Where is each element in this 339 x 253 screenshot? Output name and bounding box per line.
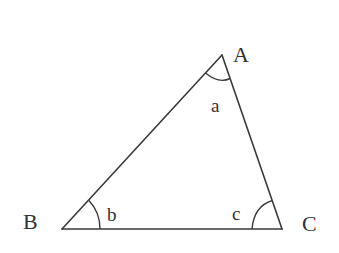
angle-arc-a bbox=[206, 73, 231, 80]
vertex-label-b: B bbox=[23, 209, 38, 234]
angle-label-a: a bbox=[211, 95, 220, 116]
edge-ab bbox=[62, 55, 222, 229]
angle-label-c: c bbox=[232, 203, 240, 224]
vertex-label-c: C bbox=[302, 211, 317, 236]
angle-arc-c bbox=[252, 201, 273, 230]
edge-ac bbox=[222, 55, 282, 229]
triangle-diagram: A B C a b c bbox=[0, 0, 339, 253]
angle-arc-b bbox=[89, 200, 101, 229]
angle-label-b: b bbox=[107, 204, 117, 225]
vertex-label-a: A bbox=[233, 42, 249, 67]
